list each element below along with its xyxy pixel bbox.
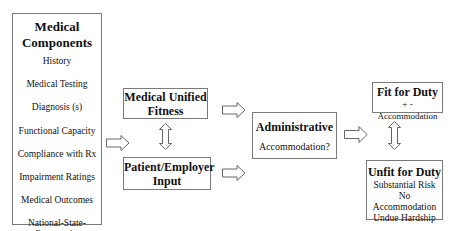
- component-impairment-ratings: Impairment Ratings: [13, 172, 101, 183]
- medical-unified-fitness-box: Medical Unified Fitness: [123, 88, 208, 119]
- right-arrow-icon: [106, 135, 132, 151]
- administrative-box: Administrative Accommodation?: [252, 112, 337, 159]
- unfit-for-duty-box: Unfit for Duty Substantial Risk No Accom…: [366, 160, 443, 220]
- component-history: History: [13, 56, 101, 67]
- component-diagnosis: Diagnosis (s): [13, 102, 101, 113]
- fit-for-duty-title: Fit for Duty: [373, 85, 442, 99]
- unfit-for-duty-title: Unfit for Duty: [367, 165, 442, 179]
- fit-for-duty-box: Fit for Duty + - Accommodation: [372, 82, 443, 113]
- component-medical-testing: Medical Testing: [13, 79, 101, 90]
- medical-components-box: Medical Components History Medical Testi…: [12, 13, 102, 225]
- unfit-line-no-accommodation: No Accommodation: [367, 191, 442, 213]
- component-medical-outcomes: Medical Outcomes: [13, 195, 101, 206]
- patient-employer-input-box: Patient/Employer Input: [123, 157, 211, 190]
- administrative-title: Administrative: [253, 120, 336, 134]
- component-compliance: Compliance with Rx: [13, 149, 101, 160]
- right-arrow-icon: [222, 102, 248, 118]
- administrative-subtitle: Accommodation?: [253, 141, 336, 153]
- component-consensus: National-State-Community Consensus: [13, 218, 101, 231]
- medical-unified-fitness-title: Medical Unified Fitness: [124, 90, 207, 118]
- medical-components-title: Medical Components: [13, 19, 101, 51]
- unfit-line-substantial-risk: Substantial Risk: [367, 180, 442, 191]
- right-arrow-icon: [222, 165, 248, 181]
- patient-employer-input-title: Patient/Employer Input: [124, 160, 210, 188]
- right-arrow-icon: [344, 126, 370, 143]
- double-vertical-arrow-icon: [388, 121, 402, 151]
- double-vertical-arrow-icon: [159, 123, 173, 151]
- unfit-line-undue-hardship: Undue Hardship: [367, 213, 442, 224]
- fit-for-duty-subtitle: + - Accommodation: [373, 99, 442, 122]
- component-functional-capacity: Functional Capacity: [13, 126, 101, 137]
